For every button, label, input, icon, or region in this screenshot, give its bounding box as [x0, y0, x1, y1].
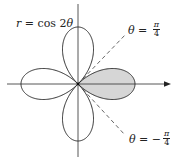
curve-label-eq: = cos 2 — [21, 17, 66, 30]
fraction-denominator: 4 — [164, 139, 169, 148]
fraction: π 4 — [153, 21, 160, 39]
label-theta: θ — [129, 134, 136, 145]
curve-label-theta: θ — [66, 17, 73, 30]
fraction-denominator: 4 — [154, 30, 159, 39]
curve-equation-label: r = cos 2θ — [16, 18, 73, 29]
label-equals: = — [135, 25, 151, 36]
origin-point — [77, 83, 80, 86]
theta-pi-over-4-label: θ = π 4 — [128, 21, 160, 39]
label-theta: θ — [128, 25, 135, 36]
x-axis-arrow-icon — [164, 81, 171, 87]
polar-rose-figure: r = cos 2θ θ = π 4 θ = − π 4 — [0, 0, 184, 158]
theta-minus-pi-over-4-label: θ = − π 4 — [129, 130, 170, 148]
fraction: π 4 — [163, 130, 170, 148]
label-equals-minus: = − — [136, 134, 161, 145]
